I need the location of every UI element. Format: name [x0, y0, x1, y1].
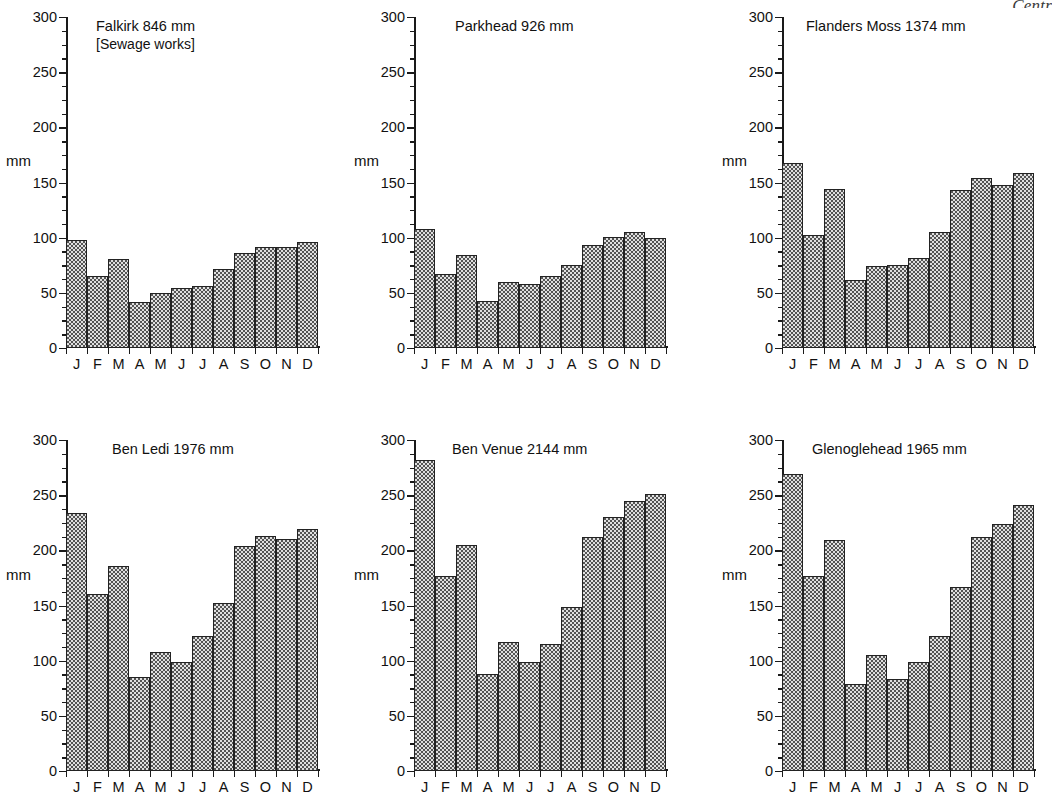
- x-axis-tick: [582, 771, 583, 777]
- y-axis-minor-tick: [62, 86, 66, 87]
- y-axis-major-tick: [775, 495, 782, 496]
- bar-M-2: [108, 566, 129, 771]
- x-axis-tick: [435, 348, 436, 354]
- y-axis-minor-tick: [410, 58, 414, 59]
- x-axis-tick-label: M: [502, 356, 514, 372]
- x-axis-tick-label: D: [650, 779, 660, 795]
- x-axis-tick: [108, 771, 109, 777]
- y-axis-minor-tick: [778, 169, 782, 170]
- x-axis-tick: [213, 348, 214, 354]
- bar-F-1: [87, 276, 108, 348]
- x-axis-tick: [624, 771, 625, 777]
- x-axis-tick: [887, 771, 888, 777]
- y-axis-tick-label: 100: [33, 230, 57, 246]
- y-axis-minor-tick: [778, 307, 782, 308]
- x-axis-tick-label: A: [483, 779, 493, 795]
- bar-J-5: [171, 288, 192, 348]
- y-axis-major-tick: [407, 17, 414, 18]
- x-axis-tick: [435, 771, 436, 777]
- x-axis-tick: [318, 771, 319, 777]
- y-axis-major-tick: [59, 606, 66, 607]
- y-axis-minor-tick: [410, 210, 414, 211]
- y-axis-minor-tick: [778, 279, 782, 280]
- bar-D-11: [297, 242, 318, 348]
- x-axis-tick-label: F: [93, 779, 102, 795]
- x-axis-tick: [929, 771, 930, 777]
- bar-F-1: [803, 235, 824, 348]
- x-axis-tick: [645, 348, 646, 354]
- x-axis-tick-label: O: [608, 356, 619, 372]
- y-axis-minor-tick: [410, 523, 414, 524]
- y-axis-tick-label: 250: [33, 64, 57, 80]
- x-axis-tick: [929, 348, 930, 354]
- x-axis-tick: [192, 348, 193, 354]
- y-axis-major-tick: [59, 771, 66, 772]
- bar-N-10: [992, 524, 1013, 771]
- y-axis-minor-tick: [410, 196, 414, 197]
- x-axis-tick-label: M: [154, 779, 166, 795]
- bar-J-0: [782, 474, 803, 771]
- y-axis-minor-tick: [410, 468, 414, 469]
- y-axis-minor-tick: [410, 537, 414, 538]
- y-axis-minor-tick: [62, 730, 66, 731]
- bar-F-1: [803, 576, 824, 771]
- bar-D-11: [645, 238, 666, 348]
- y-axis-minor-tick: [410, 647, 414, 648]
- plot-area: 050100150200250300JFMAMJJASOND: [782, 440, 1034, 771]
- y-axis-minor-tick: [410, 633, 414, 634]
- y-axis-minor-tick: [62, 279, 66, 280]
- x-axis-tick-label: N: [281, 779, 291, 795]
- y-axis-minor-tick: [62, 757, 66, 758]
- x-axis-tick: [171, 771, 172, 777]
- y-axis-minor-tick: [778, 251, 782, 252]
- x-axis-tick: [887, 348, 888, 354]
- y-axis-minor-tick: [410, 454, 414, 455]
- bar-M-4: [866, 655, 887, 771]
- y-axis-tick-label: 200: [749, 119, 773, 135]
- y-axis-major-tick: [407, 293, 414, 294]
- y-axis-minor-tick: [410, 169, 414, 170]
- x-axis-tick: [782, 348, 783, 354]
- y-axis-minor-tick: [778, 509, 782, 510]
- x-axis-tick-label: A: [851, 356, 861, 372]
- x-axis-tick-label: M: [112, 779, 124, 795]
- x-axis-tick-label: D: [302, 779, 312, 795]
- plot-area: 050100150200250300JFMAMJJASOND: [414, 440, 666, 771]
- y-axis-minor-tick: [62, 114, 66, 115]
- x-axis-tick: [950, 348, 951, 354]
- y-axis-unit-label: mm: [6, 152, 31, 169]
- y-axis-minor-tick: [410, 564, 414, 565]
- bar-J-6: [540, 276, 561, 348]
- y-axis-minor-tick: [778, 592, 782, 593]
- y-axis-major-tick: [59, 440, 66, 441]
- bar-J-6: [908, 258, 929, 348]
- y-axis-minor-tick: [410, 743, 414, 744]
- y-axis-minor-tick: [778, 702, 782, 703]
- x-axis-tick-label: O: [976, 779, 987, 795]
- y-axis-minor-tick: [62, 674, 66, 675]
- y-axis-major-tick: [775, 72, 782, 73]
- x-axis-line: [782, 769, 1036, 771]
- x-axis-tick: [845, 348, 846, 354]
- x-axis-tick-label: N: [997, 779, 1007, 795]
- y-axis-major-tick: [59, 348, 66, 349]
- bar-A-3: [845, 684, 866, 771]
- y-axis-minor-tick: [778, 537, 782, 538]
- y-axis-tick-label: 150: [33, 598, 57, 614]
- y-axis-minor-tick: [62, 592, 66, 593]
- y-axis-minor-tick: [62, 564, 66, 565]
- x-axis-tick-label: M: [870, 356, 882, 372]
- x-axis-tick-label: A: [219, 779, 229, 795]
- y-axis-minor-tick: [410, 265, 414, 266]
- y-axis-minor-tick: [410, 757, 414, 758]
- y-axis-major-tick: [59, 17, 66, 18]
- y-axis-minor-tick: [410, 155, 414, 156]
- bar-J-6: [540, 644, 561, 771]
- x-axis-tick: [603, 771, 604, 777]
- bar-A-7: [213, 269, 234, 348]
- y-axis-minor-tick: [62, 196, 66, 197]
- y-axis-tick-label: 0: [397, 763, 405, 779]
- y-axis-minor-tick: [410, 86, 414, 87]
- bar-S-8: [582, 245, 603, 348]
- y-axis-unit-label: mm: [6, 566, 31, 583]
